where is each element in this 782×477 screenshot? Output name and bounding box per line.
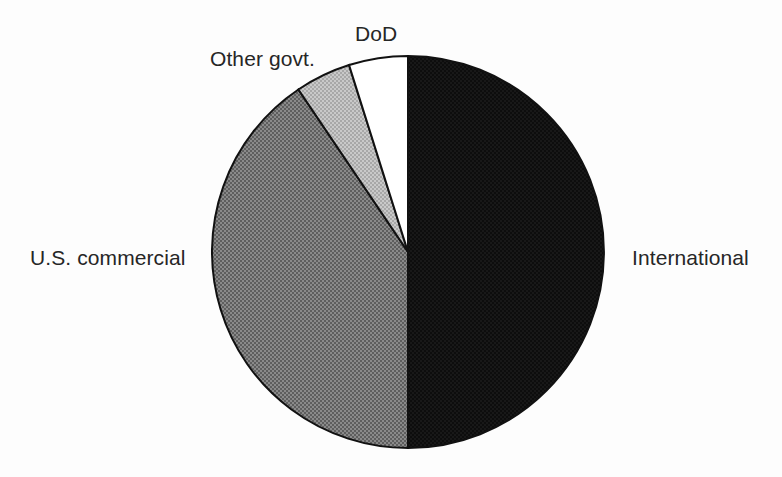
- pie-chart-figure: DoD Other govt. U.S. commercial Internat…: [0, 0, 782, 477]
- pie-label-us-commercial: U.S. commercial: [30, 246, 186, 270]
- pie-label-dod: DoD: [355, 22, 397, 46]
- pie-label-international: International: [632, 246, 749, 270]
- pie-slice-international[interactable]: [408, 56, 604, 448]
- pie-chart-graphic: [0, 0, 782, 477]
- pie-label-other-govt: Other govt.: [210, 47, 315, 71]
- pie-slices-group: [212, 56, 604, 448]
